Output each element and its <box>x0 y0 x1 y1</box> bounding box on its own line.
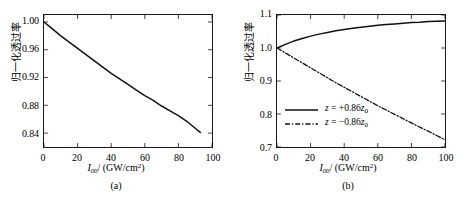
panel-caption-a: (a) <box>0 180 232 191</box>
x-axis-label-a-close: ) <box>141 162 144 173</box>
y-tick-label: 0.7 <box>260 143 272 153</box>
y-axis-label-a: 归一化透过率 <box>11 10 22 94</box>
y-tick-label: 0.88 <box>22 101 39 111</box>
legend-swatch-solid <box>285 106 318 114</box>
panel-b: 1.11.00.90.80.7 020406080100 归一化透过率 I00/… <box>232 0 464 201</box>
panel-caption-b: (b) <box>232 180 464 191</box>
y-tick-label: 1.1 <box>260 9 272 19</box>
legend-swatch-dashdot <box>285 120 318 128</box>
series-line-1 <box>44 22 200 132</box>
x-axis-label-b-close: ) <box>373 162 376 173</box>
x-axis-label-b-unit: / (GW/cm <box>329 162 369 173</box>
plot-frame-a <box>43 14 213 148</box>
x-axis-label-b: I00/ (GW/cm2) <box>232 162 464 175</box>
y-tick-label: 0.9 <box>260 76 272 86</box>
y-tick-label: 0.96 <box>22 44 39 54</box>
y-tick-label: 0.84 <box>22 129 39 139</box>
series-line-1 <box>277 21 445 48</box>
y-tick-label: 1.0 <box>260 43 272 53</box>
plot-area-a <box>44 15 212 147</box>
legend-label-2: z = −0.86z0 <box>325 116 368 132</box>
figure: 1.000.960.920.880.84 020406080100 归一化透过率… <box>0 0 464 201</box>
legend-item-2: z = −0.86z0 <box>285 117 368 131</box>
panel-a: 1.000.960.920.880.84 020406080100 归一化透过率… <box>0 0 232 201</box>
y-tick-label: 0.92 <box>22 72 39 82</box>
legend-item-1: z = +0.86z0 <box>285 103 368 117</box>
legend-b: z = +0.86z0z = −0.86z0 <box>285 103 368 131</box>
y-axis-label-b: 归一化透过率 <box>244 10 255 94</box>
x-axis-label-a-unit: / (GW/cm <box>97 162 137 173</box>
y-tick-label: 0.8 <box>260 110 272 120</box>
x-axis-label-a: I00/ (GW/cm2) <box>0 162 232 175</box>
y-tick-label: 1.00 <box>22 16 39 26</box>
